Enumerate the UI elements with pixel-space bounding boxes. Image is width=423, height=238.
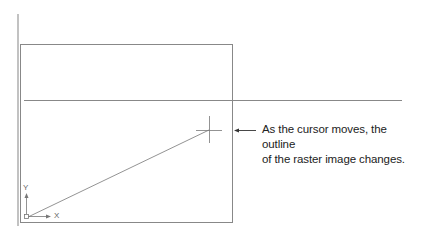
ucs-x-label: X: [54, 211, 59, 220]
drawing-canvas: [0, 0, 423, 238]
callout-line-2: of the raster image changes.: [262, 152, 422, 167]
ucs-y-label: Y: [23, 183, 28, 192]
callout-arrow: [234, 129, 256, 133]
crosshair-cursor-icon: [196, 116, 222, 143]
rubber-band-line: [28, 130, 209, 217]
callout-text: As the cursor moves, the outline of the …: [262, 122, 422, 167]
ucs-icon: [25, 193, 52, 219]
callout-line-1: As the cursor moves, the outline: [262, 122, 422, 152]
raster-image-outline: [21, 45, 233, 223]
